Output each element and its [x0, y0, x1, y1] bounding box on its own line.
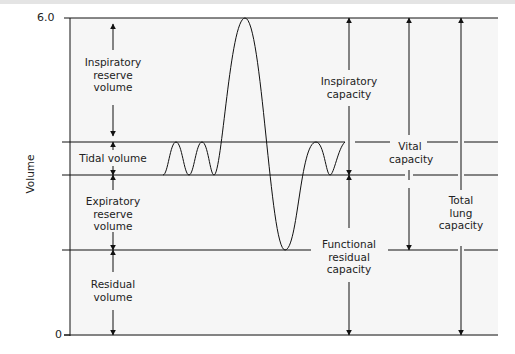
label-inspiratory-capacity: Inspiratory capacity	[314, 75, 384, 100]
label-inspiratory-reserve-volume: Inspiratory reserve volume	[78, 56, 148, 94]
y-tick-6: 6.0	[37, 11, 55, 24]
spirogram-trace	[163, 18, 345, 250]
label-tidal-volume: Tidal volume	[76, 152, 150, 165]
label-expiratory-reserve-volume: Expiratory reserve volume	[78, 195, 148, 233]
y-axis-label: Volume	[24, 154, 36, 193]
label-residual-volume: Residual volume	[78, 278, 148, 303]
label-vital-capacity: Vital capacity	[389, 140, 431, 165]
label-total-lung-capacity: Total lung capacity	[436, 194, 486, 232]
label-functional-residual-capacity: Functional residual capacity	[314, 238, 384, 276]
y-tick-0: 0	[55, 328, 62, 341]
